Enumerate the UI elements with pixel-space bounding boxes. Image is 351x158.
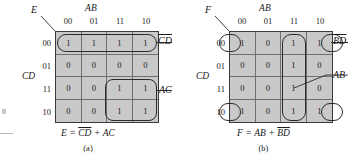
figure-caption-a: (a) bbox=[0, 143, 176, 153]
kmap-cell: 0 bbox=[82, 55, 108, 78]
karnaugh-map-figure-page: AB 00 01 11 10 E CD 00 01 11 10 1 1 1 1 … bbox=[0, 0, 351, 158]
row-header-00-a: 00 bbox=[34, 31, 51, 54]
row-header-11-a: 11 bbox=[34, 77, 51, 100]
figure-caption-b: (b) bbox=[176, 143, 351, 153]
kmap-cell: 1 bbox=[133, 77, 159, 100]
kmap-cell: 1 bbox=[107, 100, 133, 123]
kmap-cell: 0 bbox=[56, 77, 82, 100]
equation-eq-a: = bbox=[70, 128, 75, 138]
kmap-cell: 1 bbox=[133, 32, 159, 55]
equation-term2-a: AC bbox=[103, 128, 115, 138]
row-header-col-a: 00 01 11 10 bbox=[34, 31, 51, 123]
equation-a: E=CD+AC bbox=[0, 128, 176, 138]
kmap-cell: 0 bbox=[107, 55, 133, 78]
kmap-cell: 1 bbox=[107, 32, 133, 55]
row-header-01-a: 01 bbox=[34, 54, 51, 77]
equation-plus-b: + bbox=[269, 128, 274, 138]
kmap-cell: 0 bbox=[133, 55, 159, 78]
kmap-cell: 0 bbox=[56, 100, 82, 123]
equation-term1-a: CD bbox=[78, 128, 91, 138]
group-label-ac-text: AC bbox=[159, 84, 172, 95]
equation-lhs-a: E bbox=[61, 128, 67, 138]
group-label-bd-bar-text: BD bbox=[333, 35, 346, 46]
kmap-cell: 0 bbox=[82, 100, 108, 123]
kmap-grid-a: 1 1 1 1 0 0 0 0 0 0 1 1 0 0 1 1 bbox=[55, 31, 159, 123]
kmap-cell: 1 bbox=[133, 100, 159, 123]
kmap-cell: 1 bbox=[56, 32, 82, 55]
group-label-ac: AC bbox=[159, 84, 172, 95]
kmap-cell: 0 bbox=[56, 55, 82, 78]
kmap-figure-a: AB 00 01 11 10 E CD 00 01 11 10 1 1 1 1 … bbox=[0, 0, 176, 158]
kmap-figure-b: AB 00 01 11 10 F CD 00 01 11 10 1 0 1 1 … bbox=[176, 0, 351, 158]
kmap-cell: 0 bbox=[82, 77, 108, 100]
kmap-cell: 1 bbox=[82, 32, 108, 55]
group-label-ab-text: AB bbox=[333, 69, 345, 80]
page-edge-artifact bbox=[2, 109, 6, 114]
equation-eq-b: = bbox=[246, 128, 251, 138]
page-edge-rule bbox=[0, 133, 13, 134]
equation-b: F=AB+BD bbox=[176, 128, 351, 138]
group-label-bd-bar: BD bbox=[333, 35, 346, 46]
equation-term1-b: AB bbox=[254, 128, 266, 138]
group-label-ab: AB bbox=[333, 69, 345, 80]
row-header-10-a: 10 bbox=[34, 100, 51, 123]
equation-plus-a: + bbox=[94, 128, 99, 138]
group-label-cd-bar: CD bbox=[158, 35, 172, 46]
equation-term2-b: BD bbox=[277, 128, 290, 138]
equation-lhs-b: F bbox=[237, 128, 243, 138]
group-label-cd-bar-text: CD bbox=[158, 35, 172, 46]
kmap-cell: 1 bbox=[107, 77, 133, 100]
